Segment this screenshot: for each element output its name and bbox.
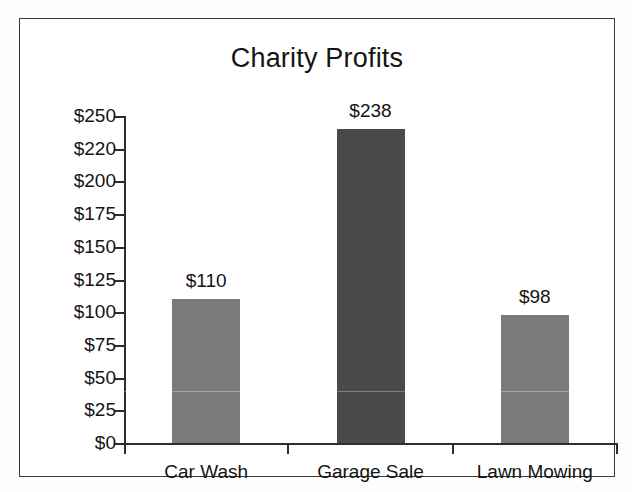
x-axis-separator — [452, 443, 454, 454]
y-axis-tick — [115, 312, 125, 314]
x-axis-separator — [124, 443, 126, 454]
chart-figure: Charity Profits $250$220$200$175$150$125… — [0, 0, 632, 492]
y-axis-tick-label: $125 — [28, 269, 116, 291]
figure-border: Charity Profits $250$220$200$175$150$125… — [19, 18, 615, 477]
y-axis-tick-label: $175 — [28, 203, 116, 225]
y-axis-tick — [115, 410, 125, 412]
y-axis-tick — [115, 149, 125, 151]
bar-garage-sale[interactable]: $238 — [337, 129, 405, 443]
y-axis-tick — [115, 280, 125, 282]
y-axis-tick — [115, 181, 125, 183]
bar-value-label: $110 — [186, 270, 227, 292]
bar-lawn-mowing[interactable]: $98 — [501, 315, 569, 443]
y-axis-tick-label: $75 — [28, 334, 116, 356]
y-axis-tick — [115, 214, 125, 216]
chart-title: Charity Profits — [20, 43, 614, 74]
y-axis-tick-label: $100 — [28, 301, 116, 323]
bar-value-label: $98 — [519, 286, 551, 308]
bar-rect — [337, 129, 405, 443]
x-axis-separator — [616, 443, 618, 454]
category-label: Car Wash — [164, 461, 248, 483]
plot-area: $250$220$200$175$150$125$100$75$50$25$0 … — [124, 116, 617, 443]
y-axis-tick — [115, 116, 125, 118]
y-axis-tick-label: $220 — [28, 138, 116, 160]
bar-value-label: $238 — [349, 100, 391, 122]
bar-rect — [172, 299, 240, 443]
x-axis-separator — [287, 443, 289, 454]
y-axis-tick — [115, 378, 125, 380]
y-axis-tick-label: $150 — [28, 236, 116, 258]
category-label: Garage Sale — [317, 461, 424, 483]
category-label: Lawn Mowing — [477, 461, 593, 483]
y-axis-tick-label: $250 — [28, 105, 116, 127]
y-axis-tick — [115, 247, 125, 249]
bar-car-wash[interactable]: $110 — [172, 299, 240, 443]
bar-rect — [501, 315, 569, 443]
y-axis-tick-label: $25 — [28, 399, 116, 421]
y-axis-tick-label: $200 — [28, 170, 116, 192]
y-axis-tick-label: $0 — [28, 432, 116, 454]
x-axis-line — [124, 443, 617, 445]
y-axis-tick — [115, 345, 125, 347]
y-axis-tick-label: $50 — [28, 367, 116, 389]
